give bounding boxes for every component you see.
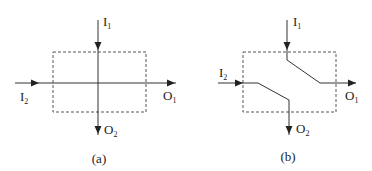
switch-box-a: [53, 52, 146, 112]
label-o2-a: O2: [104, 122, 117, 139]
arrowhead-o1-b: [348, 80, 356, 87]
path-i2-to-o2-b: [218, 83, 289, 135]
label-i2-a: I2: [20, 89, 28, 106]
label-o2-b: O2: [296, 121, 309, 138]
arrowhead-o1-a: [167, 80, 175, 87]
label-o1-b: O1: [345, 88, 358, 105]
arrowhead-o2-b: [286, 126, 293, 134]
arrowhead-i1-a: [95, 42, 102, 50]
caption-b: (b): [280, 149, 295, 164]
arrowhead-o2-a: [95, 126, 102, 134]
arrowhead-i2-b: [235, 80, 243, 87]
caption-a: (a): [92, 151, 106, 166]
diagram-canvas: I1 I2 O1 O2 (a) I1 I2 O1 O2 (b): [0, 0, 372, 171]
label-i1-b: I1: [293, 14, 301, 31]
arrowhead-i2-a: [31, 80, 39, 87]
label-i1-a: I1: [103, 14, 111, 31]
label-o1-a: O1: [163, 88, 176, 105]
arrowhead-i1-b: [284, 42, 291, 50]
panel-a: I1 I2 O1 O2 (a): [15, 14, 176, 166]
label-i2-b: I2: [219, 65, 227, 82]
panel-b: I1 I2 O1 O2 (b): [218, 14, 358, 164]
